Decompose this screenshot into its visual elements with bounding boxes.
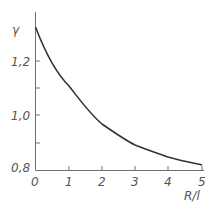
x-tick-label-5: 5 <box>198 175 206 189</box>
y-tick-label-1.0: 1,0 <box>11 109 30 123</box>
x-tick-label-3: 3 <box>131 175 139 189</box>
x-tick-label-0: 0 <box>31 175 39 189</box>
y-tick-label-1.2: 1,2 <box>11 55 30 69</box>
gamma-curve <box>36 27 203 165</box>
x-tick-label-2: 2 <box>98 175 106 189</box>
x-tick-label-1: 1 <box>65 175 73 189</box>
x-axis-label: R/l <box>184 189 200 203</box>
chart: γ 1,2 1,0 0,8 0 1 2 3 4 5 R/l <box>0 0 217 218</box>
x-tick-label-4: 4 <box>164 175 172 189</box>
y-axis-label: γ <box>12 23 20 37</box>
y-tick-label-0.8: 0,8 <box>11 161 30 175</box>
